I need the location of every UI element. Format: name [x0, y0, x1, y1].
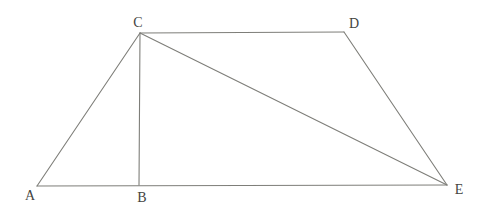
segment-CE-line: [140, 33, 447, 185]
vertex-label-A: A: [25, 188, 36, 203]
segment-AC-line: [37, 33, 140, 186]
vertex-label-C: C: [133, 15, 142, 30]
vertex-label-B: B: [137, 190, 146, 205]
segment-AE-line: [37, 185, 447, 186]
segment-CB-line: [139, 33, 140, 185]
vertex-label-E: E: [455, 182, 464, 197]
diagram-container: ABCDE: [0, 0, 483, 214]
segment-DE-line: [344, 32, 447, 185]
vertex-label-D: D: [349, 16, 359, 31]
segment-CD-line: [140, 32, 344, 33]
geometry-canvas: ABCDE: [0, 0, 483, 214]
